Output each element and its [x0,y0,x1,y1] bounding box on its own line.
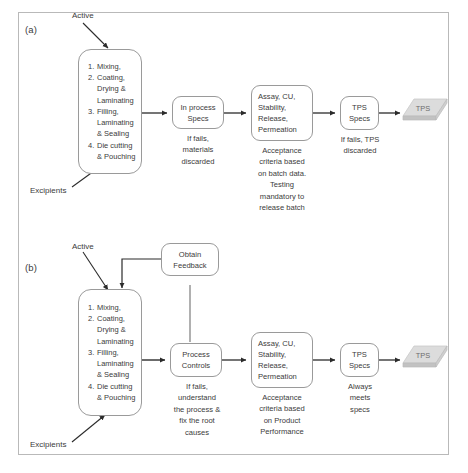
step-row: 4. Die cutting [88,381,138,392]
arrow-active-to-manufacturing-b [83,252,108,290]
caption-tps-specs-a: If fails, TPS discarded [328,134,392,157]
step-text: Die cutting [97,140,138,151]
product-label-b: TPS [399,351,447,360]
panel-label-b: (b) [25,262,37,273]
caption-testing-b: Acceptance criteria based on Product Per… [243,392,321,438]
input-label-excipients-b: Excipients [30,440,66,449]
step-row: 4. Die cutting [88,140,138,151]
step-text: Mixing, [97,61,138,72]
product-tps-slab-b: TPS [401,342,449,374]
step-number: 3. [88,347,97,358]
node-testing-b[interactable]: Assay, CU, Stability, Release, Permeatio… [251,332,313,388]
connector-overlay [0,0,468,473]
caption-inprocess-specs-a: If fails, materials discarded [165,133,231,167]
manufacturing-step-list-b: 1. Mixing, 2. Coating, Drying & Laminati… [82,302,138,403]
step-text: Laminating [88,95,138,106]
arrow-feedback-to-manufacturing-b [122,259,161,288]
arrow-excipients-to-manufacturing-b [72,415,105,442]
step-text: & Pouching [88,392,138,403]
step-row: 1. Mixing, [88,61,138,72]
step-number: 3. [88,106,97,117]
step-text: & Sealing [88,128,138,139]
step-row: 2. Coating, [88,313,138,324]
node-process-controls-b[interactable]: Process Controls [170,343,222,377]
step-text: Coating, [97,72,138,83]
step-number: 4. [88,381,97,392]
node-manufacturing-b[interactable]: 1. Mixing, 2. Coating, Drying & Laminati… [78,289,142,416]
node-inprocess-specs-a[interactable]: In process Specs [172,96,224,129]
step-number: 4. [88,140,97,151]
caption-testing-a: Acceptance criteria based on batch data.… [243,145,321,213]
product-tps-slab-a: TPS [401,95,449,127]
input-label-active-a: Active [72,11,94,20]
node-obtain-feedback-b[interactable]: Obtain Feedback [161,243,219,276]
step-text: Mixing, [97,302,138,313]
step-text: Drying & [88,324,138,335]
manufacturing-step-list-a: 1. Mixing, 2. Coating, Drying & Laminati… [82,61,138,162]
step-number: 2. [88,313,97,324]
step-text: Laminating [88,117,138,128]
step-row: 3. Filling, [88,347,138,358]
step-text: Filling, [97,347,138,358]
step-text: & Sealing [88,369,138,380]
step-row: 1. Mixing, [88,302,138,313]
step-text: Die cutting [97,381,138,392]
step-text: Coating, [97,313,138,324]
node-testing-a[interactable]: Assay, CU, Stability, Release, Permeatio… [251,85,313,141]
step-text: Laminating [88,336,138,347]
step-text: Drying & [88,83,138,94]
node-manufacturing-a[interactable]: 1. Mixing, 2. Coating, Drying & Laminati… [78,49,142,174]
panel-label-a: (a) [25,24,37,35]
step-text: Laminating [88,358,138,369]
arrow-active-to-manufacturing-a [83,23,108,48]
step-number: 1. [88,302,97,313]
node-tps-specs-a[interactable]: TPS Specs [340,96,379,130]
step-text: & Pouching [88,151,138,162]
step-row: 2. Coating, [88,72,138,83]
figure-canvas: (a) Active Excipients 1. Mixing, 2. Coat… [0,0,468,473]
product-label-a: TPS [399,104,447,113]
step-text: Filling, [97,106,138,117]
step-row: 3. Filling, [88,106,138,117]
input-label-active-b: Active [72,242,94,251]
caption-tps-specs-b: Always meets specs [330,381,390,415]
step-number: 1. [88,61,97,72]
input-label-excipients-a: Excipients [30,186,66,195]
node-tps-specs-b[interactable]: TPS Specs [340,343,379,377]
step-number: 2. [88,72,97,83]
caption-process-controls-b: If fails, understand the process & fix t… [160,381,234,438]
